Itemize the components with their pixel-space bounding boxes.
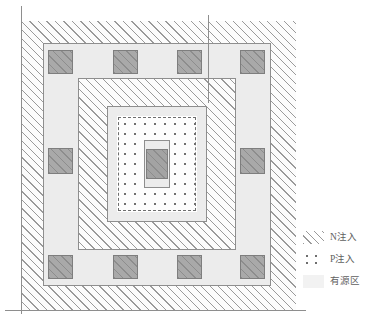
legend-label-n-implant: N注入 bbox=[330, 231, 357, 244]
axis-horizontal-line bbox=[5, 310, 306, 311]
contact-top-4 bbox=[240, 50, 265, 74]
contact-bottom-3 bbox=[177, 255, 202, 279]
legend-item-active-area: 有源区 bbox=[303, 272, 369, 290]
dot-array-swatch-icon bbox=[303, 253, 324, 266]
contact-top-3 bbox=[177, 50, 202, 74]
legend-label-active-area: 有源区 bbox=[330, 275, 360, 288]
legend: N注入 P注入 有源区 bbox=[303, 228, 369, 294]
axis-inner-vertical-line bbox=[208, 15, 209, 103]
legend-label-p-implant: P注入 bbox=[330, 253, 355, 266]
contact-bottom-4 bbox=[240, 255, 265, 279]
axis-vertical-line bbox=[21, 6, 22, 314]
legend-item-p-implant: P注入 bbox=[303, 250, 369, 268]
legend-item-n-implant: N注入 bbox=[303, 228, 369, 246]
contact-bottom-1 bbox=[48, 255, 73, 279]
solid-light-swatch-icon bbox=[303, 275, 324, 288]
contact-bottom-2 bbox=[113, 255, 138, 279]
contact-right-1 bbox=[240, 148, 265, 174]
contact-top-1 bbox=[48, 50, 73, 74]
gate-stack-core bbox=[146, 149, 168, 179]
contact-top-2 bbox=[113, 50, 138, 74]
diagonal-hatch-swatch-icon bbox=[303, 231, 324, 244]
contact-left-1 bbox=[48, 148, 73, 174]
